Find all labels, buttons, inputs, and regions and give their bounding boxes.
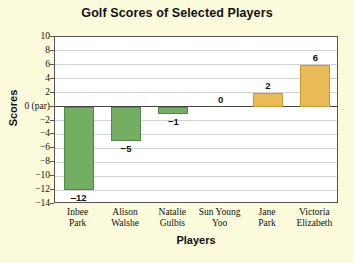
- x-axis-category-label-line: Elizabeth: [282, 218, 346, 229]
- gridline: [55, 64, 337, 65]
- y-axis-tick-mark: [50, 203, 54, 204]
- bar: [111, 107, 141, 142]
- bar-value-label: ‒12: [49, 192, 109, 203]
- gridline: [55, 162, 337, 163]
- y-axis-tick-label: 4: [0, 73, 50, 83]
- golf-scores-bar-chart: Golf Scores of Selected Players Scores 1…: [0, 0, 354, 263]
- y-axis-tick-label: −2: [0, 115, 50, 125]
- y-axis-tick-label: −4: [0, 128, 50, 138]
- x-axis-category-label-line: Victoria: [282, 207, 346, 218]
- y-axis-tick-label: 8: [0, 45, 50, 55]
- bar-value-label: −1: [143, 116, 203, 127]
- gridline: [55, 134, 337, 135]
- y-axis-tick-label: 10: [0, 31, 50, 41]
- y-axis-tick-label: −12: [0, 184, 50, 194]
- bar-value-label: −5: [96, 143, 156, 154]
- zero-line: [55, 106, 337, 107]
- bar-value-label: 0: [191, 94, 251, 105]
- y-axis-tick-label: 6: [0, 59, 50, 69]
- bar-value-label: 6: [285, 52, 345, 63]
- y-axis-tick-label: −8: [0, 156, 50, 166]
- y-axis-tick-label: −14: [0, 198, 50, 208]
- bar: [253, 93, 283, 107]
- y-axis-tick-label: −6: [0, 142, 50, 152]
- bar: [158, 107, 188, 114]
- bar: [300, 65, 330, 107]
- plot-area: ‒12−5−1026: [54, 36, 338, 203]
- x-axis-title: Players: [54, 234, 338, 246]
- y-axis-tick-label: 2: [0, 87, 50, 97]
- gridline: [55, 176, 337, 177]
- bar: [64, 107, 94, 191]
- gridline: [55, 190, 337, 191]
- y-axis-tick-label: −10: [0, 170, 50, 180]
- bar-value-label: 2: [238, 80, 298, 91]
- x-axis-category-label: VictoriaElizabeth: [282, 207, 346, 228]
- chart-title: Golf Scores of Selected Players: [0, 6, 354, 20]
- y-axis-tick-label: 0 (par): [0, 101, 50, 111]
